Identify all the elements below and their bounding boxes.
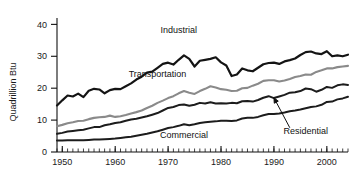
x-tick-label: 1970 [158,157,178,167]
y-tick-label: 0 [42,147,47,157]
x-tick-label: 1960 [105,157,125,167]
x-tick-label: 1990 [264,157,284,167]
y-axis-title: Quadrillion Btu [8,62,18,121]
series-line-transportation [57,66,348,126]
series-label-residential: Residential [283,126,328,136]
x-tick-label: 1950 [52,157,72,167]
x-tick-label: 1980 [211,157,231,167]
y-tick-label: 40 [37,20,47,30]
y-axis-ticks: 010203040 [37,20,57,158]
chart-canvas: Quadrillion Btu 010203040 19501960197019… [0,0,354,181]
y-tick-label: 30 [37,51,47,61]
series-label-transportation: Transportation [129,69,187,79]
series-labels: IndustrialTransportationResidentialComme… [129,25,328,140]
energy-consumption-chart: Quadrillion Btu 010203040 19501960197019… [0,0,354,181]
y-tick-label: 20 [37,83,47,93]
series-label-industrial: Industrial [160,25,197,35]
y-tick-label: 10 [37,115,47,125]
residential-arrow-head [274,98,278,103]
series-label-commercial: Commercial [160,130,208,140]
y-axis-title-group: Quadrillion Btu [8,62,18,121]
series-line-industrial [57,51,348,105]
x-tick-label: 2000 [317,157,337,167]
